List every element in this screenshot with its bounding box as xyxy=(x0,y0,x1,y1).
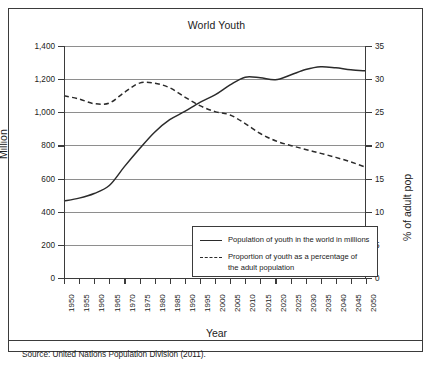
y-axis-left-tick-mark xyxy=(58,46,64,47)
series-line-1 xyxy=(64,67,366,201)
x-axis-tick-mark xyxy=(185,279,186,284)
x-axis-tick-mark xyxy=(155,279,156,284)
x-axis-tick-mark xyxy=(306,279,307,284)
x-axis-tick-label: 1985 xyxy=(173,294,182,312)
y-axis-right-tick-label: 20 xyxy=(375,141,401,150)
y-axis-left-tick-label: 1,200 xyxy=(13,75,55,84)
legend-key-2 xyxy=(200,257,222,259)
x-axis-tick-label: 1980 xyxy=(158,294,167,312)
y-axis-left-tick-mark xyxy=(58,112,64,113)
x-axis-tick-label: 2015 xyxy=(264,294,273,312)
x-axis-tick-mark xyxy=(64,279,65,284)
x-axis-tick-mark xyxy=(140,279,141,284)
y-axis-left-tick-mark xyxy=(58,79,64,80)
y-axis-right-tick-mark xyxy=(366,179,372,180)
y-axis-left-tick-label: 200 xyxy=(13,240,55,249)
x-axis-tick-label: 1995 xyxy=(203,294,212,312)
y-axis-right-label: % of adult pop xyxy=(401,174,413,241)
x-axis-tick-label: 1950 xyxy=(67,294,76,312)
x-axis-tick-label: 1960 xyxy=(97,294,106,312)
x-axis-tick-label: 1990 xyxy=(188,294,197,312)
x-axis-tick-label: 2010 xyxy=(248,294,257,312)
x-axis-tick-label: 2005 xyxy=(233,294,242,312)
y-axis-right-tick-mark xyxy=(366,46,372,47)
x-axis-tick-label: 2000 xyxy=(218,294,227,312)
y-axis-left-tick-label: 800 xyxy=(13,141,55,150)
x-axis-tick-mark xyxy=(124,279,125,284)
x-axis-tick-label: 1955 xyxy=(82,294,91,312)
x-axis-tick-label: 2030 xyxy=(309,294,318,312)
chart-legend: Population of youth in the world in mill… xyxy=(192,226,378,277)
y-axis-left-tick-mark xyxy=(58,179,64,180)
x-axis-tick-mark xyxy=(94,279,95,284)
y-axis-left-tick-mark xyxy=(58,212,64,213)
legend-label-2-line2: the adult population xyxy=(228,263,294,272)
y-axis-left-tick-mark xyxy=(58,245,64,246)
y-axis-left-tick-mark xyxy=(58,145,64,146)
figure-frame: World Youth Million % of adult pop Year … xyxy=(8,8,423,352)
y-axis-left-tick-label: 600 xyxy=(13,174,55,183)
x-axis-tick-mark xyxy=(351,279,352,284)
x-axis-tick-mark xyxy=(291,279,292,284)
x-axis-tick-label: 1965 xyxy=(113,294,122,312)
x-axis-tick-mark xyxy=(215,279,216,284)
x-axis-tick-mark xyxy=(170,279,171,284)
y-axis-right-tick-label: 30 xyxy=(375,75,401,84)
legend-label-2: Proportion of youth as a percentage of xyxy=(228,252,357,261)
legend-label-1: Population of youth in the world in mill… xyxy=(228,235,369,244)
x-axis-tick-label: 2045 xyxy=(354,294,363,312)
y-axis-left-tick-label: 1,000 xyxy=(13,108,55,117)
y-axis-right-tick-mark xyxy=(366,79,372,80)
x-axis-tick-mark xyxy=(230,279,231,284)
x-axis-tick-mark xyxy=(366,279,367,284)
x-axis-tick-mark xyxy=(200,279,201,284)
y-axis-right-tick-label: 25 xyxy=(375,108,401,117)
y-axis-right-tick-mark xyxy=(366,212,372,213)
x-axis-tick-mark xyxy=(109,279,110,284)
x-axis-tick-label: 1970 xyxy=(128,294,137,312)
x-axis-tick-mark xyxy=(245,279,246,284)
y-axis-right-tick-label: 35 xyxy=(375,42,401,51)
x-axis-tick-mark xyxy=(260,279,261,284)
x-axis-tick-mark xyxy=(336,279,337,284)
x-axis-label: Year xyxy=(9,327,424,339)
legend-key-1 xyxy=(200,240,222,242)
y-axis-right-tick-label: 10 xyxy=(375,207,401,216)
y-axis-right-tick-label: 5 xyxy=(375,240,401,249)
y-axis-right-tick-label: 15 xyxy=(375,174,401,183)
source-divider xyxy=(9,340,422,341)
x-axis-tick-mark xyxy=(321,279,322,284)
x-axis-tick-label: 2040 xyxy=(339,294,348,312)
x-axis-tick-label: 2020 xyxy=(279,294,288,312)
y-axis-left-line xyxy=(64,46,65,279)
y-axis-right-tick-mark xyxy=(366,145,372,146)
chart-title: World Youth xyxy=(9,19,424,31)
x-axis-tick-mark xyxy=(275,279,276,284)
x-axis-tick-label: 1975 xyxy=(143,294,152,312)
x-axis-tick-label: 2025 xyxy=(294,294,303,312)
x-axis-tick-label: 2050 xyxy=(369,294,378,312)
x-axis-tick-label: 2035 xyxy=(324,294,333,312)
y-axis-left-tick-label: 0 xyxy=(13,274,55,283)
y-axis-left-label: Million xyxy=(0,129,9,159)
x-axis-tick-mark xyxy=(79,279,80,284)
y-axis-left-tick-label: 1,400 xyxy=(13,42,55,51)
y-axis-right-tick-label: 0 xyxy=(375,274,401,283)
y-axis-left-tick-label: 400 xyxy=(13,207,55,216)
y-axis-right-tick-mark xyxy=(366,112,372,113)
source-note: Source: United Nations Population Divisi… xyxy=(22,350,206,359)
